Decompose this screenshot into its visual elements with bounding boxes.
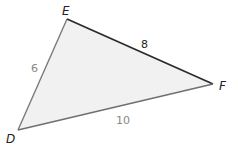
- side-label-de: 6: [31, 62, 38, 75]
- vertex-label-d: D: [6, 132, 15, 146]
- side-label-ef: 8: [141, 38, 148, 51]
- side-label-df: 10: [116, 114, 130, 127]
- vertex-label-e: E: [62, 4, 70, 18]
- triangle-svg: E F D 6 8 10: [0, 0, 238, 149]
- vertex-label-f: F: [219, 79, 227, 93]
- triangle-diagram: E F D 6 8 10: [0, 0, 238, 149]
